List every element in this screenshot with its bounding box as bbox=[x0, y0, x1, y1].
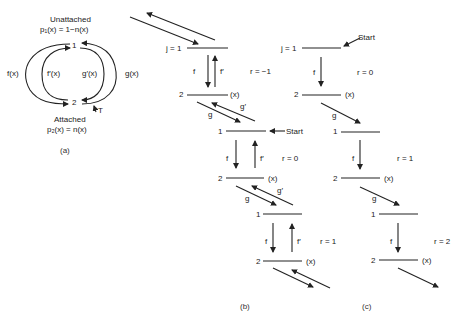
b-g2: g bbox=[245, 194, 249, 203]
c-level2-f: f bbox=[390, 237, 392, 246]
c-level2-x: (x) bbox=[422, 256, 431, 265]
b-level2-r: r = 1 bbox=[320, 237, 336, 246]
attached-label: Attached bbox=[54, 115, 86, 124]
g-label: g(x) bbox=[125, 69, 139, 78]
b-level0-r: r = −1 bbox=[250, 67, 271, 76]
c-level2-j1: 1 bbox=[371, 210, 375, 219]
caption-b: (b) bbox=[240, 302, 250, 311]
state-2-label: 2 bbox=[72, 98, 76, 107]
c-level1-j1: 1 bbox=[333, 127, 337, 136]
gprime-label: g′(x) bbox=[82, 69, 97, 78]
b-level1-fp: f′ bbox=[260, 154, 264, 163]
c-start: Start bbox=[358, 33, 375, 42]
b-level2-fp: f′ bbox=[297, 237, 301, 246]
b-level0-f: f bbox=[193, 67, 195, 76]
caption-c: (c) bbox=[362, 302, 371, 311]
b-level0-j1: j = 1 bbox=[166, 44, 181, 53]
caption-a: (a) bbox=[60, 146, 70, 155]
b-gp1: g′ bbox=[240, 102, 246, 111]
b-level1-f: f bbox=[226, 154, 228, 163]
b-gp2: g′ bbox=[277, 186, 283, 195]
p2-equation: p₂(x) = n(x) bbox=[47, 125, 87, 134]
b-level0-x: (x) bbox=[230, 90, 239, 99]
c-level0-j2: 2 bbox=[294, 90, 298, 99]
p1-equation: p₁(x) = 1−n(x) bbox=[40, 25, 89, 34]
b-g1: g bbox=[208, 110, 212, 119]
b-level2-x: (x) bbox=[306, 257, 315, 266]
c-g1: g bbox=[332, 111, 336, 120]
state-1-label: 1 bbox=[72, 41, 76, 50]
f-label: f(x) bbox=[7, 69, 19, 78]
c-level0-x: (x) bbox=[345, 90, 354, 99]
c-level1-x: (x) bbox=[384, 174, 393, 183]
b-level2-j2: 2 bbox=[256, 257, 260, 266]
c-level1-j2: 2 bbox=[333, 174, 337, 183]
b-level1-r: r = 0 bbox=[282, 154, 298, 163]
c-level1-f: f bbox=[352, 154, 354, 163]
c-level0-r: r = 0 bbox=[357, 68, 373, 77]
c-level2-j2: 2 bbox=[371, 256, 375, 265]
c-g2: g bbox=[372, 194, 376, 203]
diagram-graphics bbox=[0, 0, 464, 320]
b-level2-f: f bbox=[265, 237, 267, 246]
b-level1-x: (x) bbox=[268, 174, 277, 183]
b-level2-j1: 1 bbox=[256, 210, 260, 219]
c-level1-r: r = 1 bbox=[397, 154, 413, 163]
T-label: T bbox=[98, 106, 103, 115]
b-level1-j1: 1 bbox=[218, 127, 222, 136]
unattached-label: Unattached bbox=[50, 15, 91, 24]
c-level2-r: r = 2 bbox=[434, 237, 450, 246]
b-start: Start bbox=[286, 127, 303, 136]
b-level0-j2: 2 bbox=[179, 90, 183, 99]
c-level0-j1: j = 1 bbox=[281, 44, 296, 53]
b-level1-j2: 2 bbox=[218, 174, 222, 183]
b-level0-fp: f′ bbox=[220, 67, 224, 76]
fprime-label: f′(x) bbox=[47, 69, 60, 78]
c-level0-f: f bbox=[313, 68, 315, 77]
